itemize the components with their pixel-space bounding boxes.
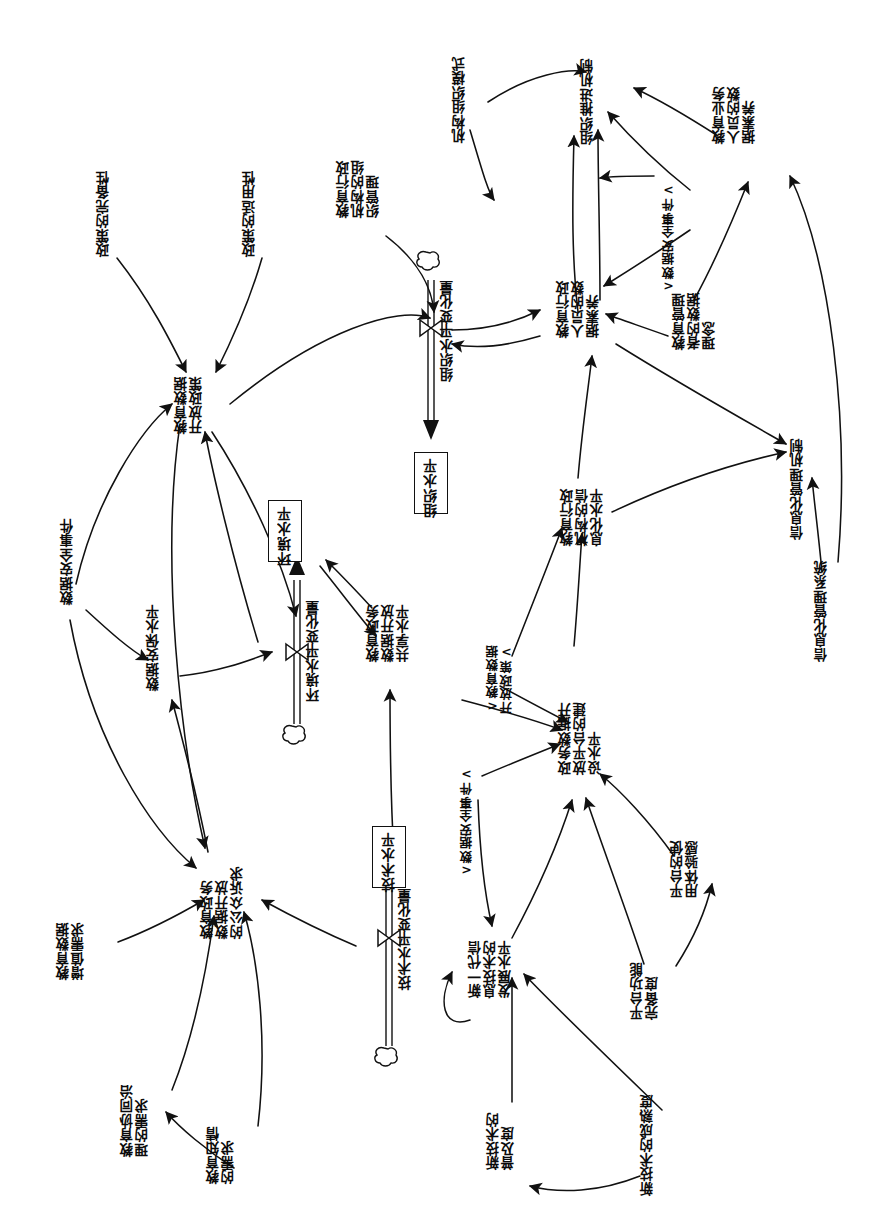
link-layer (0, 0, 883, 1216)
variable-platform-function-completeness[interactable]: 平台功能 完备度 (630, 962, 660, 1020)
variable-institution-org-model[interactable]: 机构组织模式 (452, 56, 467, 143)
variable-new-tech-popularity[interactable]: 新技术的 普及度 (486, 1112, 516, 1170)
variable-platform-user-experience[interactable]: 平台的使 用体验感 (670, 840, 700, 898)
variable-policy-completeness[interactable]: 政策的完备性 (96, 170, 111, 257)
variable-edu-data-open-policy[interactable]: 教育数据 开放政策 (174, 376, 204, 434)
shadow-variable-edu-data-open-policy[interactable]: <教育数据 开放政策> (486, 644, 514, 714)
variable-new-tech-maturity[interactable]: 新技术的成熟度 (640, 1094, 655, 1196)
flow-label-technology-change: 技术水平变化量 (398, 888, 413, 990)
variable-admin-org-management[interactable]: 教育行政 机构的组 织管理 (336, 160, 381, 218)
stock-label-environment-level: 环境水平 (275, 506, 295, 566)
shadow-variable-data-security-event-bottom[interactable]: <数据安全事件> (460, 766, 474, 878)
variable-collaborative-governance-demand[interactable]: 教育协同治 理的需求 (120, 1084, 150, 1157)
variable-admin-institution-informatization-level[interactable]: 教育行政 机构的信 息化水平 (560, 488, 605, 546)
variable-business-staff-data-literacy[interactable]: 教育业务 人员的数 据素养 (712, 86, 757, 144)
stock-label-technology-level: 技术水平 (379, 832, 399, 892)
variable-policy-applicability[interactable]: 政策的适用性 (242, 170, 257, 257)
variable-edu-data-value-added-demand[interactable]: 教育数据 增值需求 (56, 922, 86, 980)
variable-data-security-guard-level[interactable]: 数据安保水平 (146, 604, 161, 691)
variable-gov-data-platform-construction-level[interactable]: 政务数据开 放平台的建 设水平 (558, 702, 603, 775)
flow-label-environment-change: 环境水平变化量 (306, 600, 321, 702)
variable-right-to-know-demand[interactable]: 教育知情 的需求 (206, 1126, 236, 1184)
variable-admin-staff-data-literacy[interactable]: 教育行政 人员的数 据素养 (556, 280, 601, 338)
variable-new-generation-it-development-level[interactable]: 新一代信 息技术的 发展水平 (468, 940, 513, 998)
variable-data-open-sharing-level[interactable]: 教育政务 数据开放 共享水平 (366, 604, 411, 662)
variable-manager-data-concept[interactable]: 教育管理 者的数据 理念 (672, 292, 717, 350)
variable-org-promotion-mechanism[interactable]: 组织推进机制 (580, 58, 595, 145)
variable-informatization-management-system[interactable]: 信息化管理系统 (814, 560, 829, 662)
flow-label-organization-change: 组织水平变化量 (440, 280, 455, 382)
variable-informatization-management-mechanism[interactable]: 信息化管理机制 (790, 438, 805, 540)
stock-label-organization-level: 组织水平 (421, 458, 441, 518)
shadow-variable-data-security-event-top[interactable]: <数据安全事件> (662, 182, 676, 294)
variable-data-security-event[interactable]: 数据安全事件 (60, 518, 75, 605)
variable-public-demand-for-open-data[interactable]: 教育政务 数据开放 的公众诉求 (200, 866, 245, 939)
causal-loop-diagram: 环境水平 组织水平 技术水平 环境水平变化量 组织水平变化量 技术水平变化量 政… (0, 0, 883, 1216)
